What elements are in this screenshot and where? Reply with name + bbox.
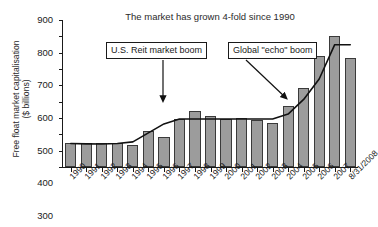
y-tick-label-800: 800 xyxy=(37,48,53,58)
y-axis-title: Free float market capitalisation ($ bill… xyxy=(11,19,33,179)
annotation-global-echo-boom: Global "echo" boom xyxy=(228,42,317,59)
y-tick-label-700: 700 xyxy=(37,81,53,91)
y-tick-label-300: 300 xyxy=(37,211,53,221)
bar-2005 xyxy=(298,88,309,167)
bar-2002 xyxy=(251,120,262,167)
bar-1997 xyxy=(174,119,185,167)
bar-2006 xyxy=(314,56,325,167)
y-tick-label-400: 400 xyxy=(37,179,53,189)
annotation-us-reit-market-boom: U.S. Reit market boom xyxy=(106,42,207,59)
bar-8/31/2008 xyxy=(345,58,356,167)
bar-1990 xyxy=(65,143,76,168)
bar-2007 xyxy=(329,36,340,167)
bar-2003 xyxy=(267,123,278,167)
y-tick-label-900: 900 xyxy=(37,15,53,25)
y-tick-label-600: 600 xyxy=(37,113,53,123)
y-tick-0: 0 xyxy=(59,167,63,168)
bar-2000 xyxy=(220,119,231,167)
y-axis-title-line2: ($ billions) xyxy=(21,19,31,179)
y-tick-label-500: 500 xyxy=(37,146,53,156)
bar-1998 xyxy=(189,111,200,167)
bar-2004 xyxy=(283,106,294,167)
bar-2001 xyxy=(236,118,247,167)
bar-chart: The market has grown 4-fold since 1990 F… xyxy=(0,0,378,227)
bar-1999 xyxy=(205,116,216,167)
y-axis-title-line1: Free float market capitalisation xyxy=(11,19,21,179)
